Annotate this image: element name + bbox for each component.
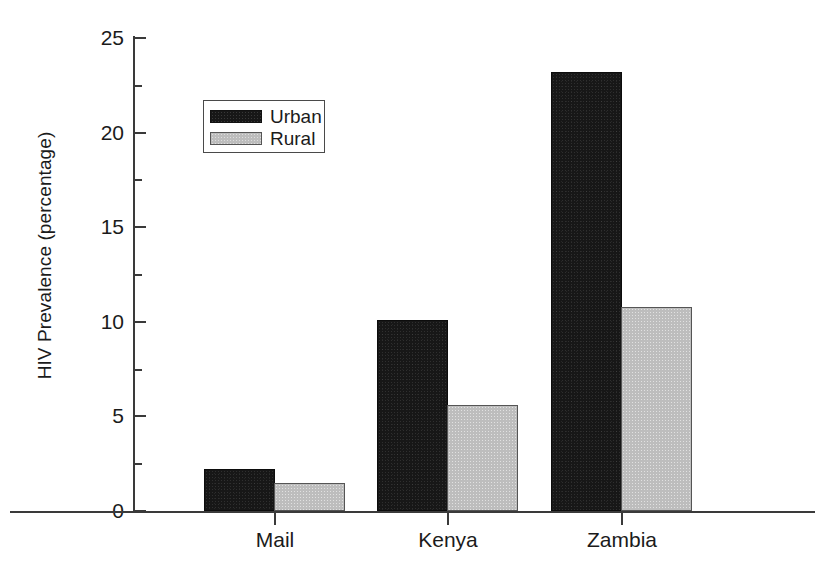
bar-series-layer [0,0,825,511]
legend-item-rural[interactable]: Rural [210,128,318,149]
x-tick-mark-zambia [621,513,623,525]
bar-mail-rural[interactable] [274,483,345,511]
x-tick-label-mail: Mail [256,528,295,552]
x-tick-mark-kenya [447,513,449,525]
chart-legend: Urban Rural [203,100,325,153]
legend-swatch-urban-icon [210,110,262,123]
bar-kenya-urban[interactable] [377,320,448,511]
x-axis-line [10,511,815,513]
bar-chart-figure: HIV Prevalence (percentage) 0 5 10 15 20… [0,0,825,578]
bar-group-kenya [377,38,518,511]
bar-mail-urban[interactable] [204,469,275,511]
legend-item-urban[interactable]: Urban [210,106,318,127]
bar-zambia-urban[interactable] [551,72,622,511]
bar-kenya-rural[interactable] [447,405,518,511]
legend-label-urban: Urban [270,107,322,126]
legend-swatch-rural-icon [210,132,262,145]
x-tick-mark-mail [274,513,276,525]
bar-group-zambia [551,38,692,511]
x-tick-label-kenya: Kenya [418,528,478,552]
x-tick-label-zambia: Zambia [587,528,657,552]
legend-label-rural: Rural [270,129,315,148]
bar-zambia-rural[interactable] [621,307,692,511]
